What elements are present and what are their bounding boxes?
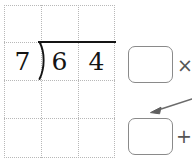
gridline-horizontal xyxy=(4,5,115,6)
plus-sign-icon: + xyxy=(176,127,192,146)
arrow-shaft xyxy=(155,99,192,111)
gridline-horizontal xyxy=(4,157,115,158)
answer-box-top[interactable] xyxy=(128,46,173,83)
multiplication-sign-icon: × xyxy=(177,56,192,75)
gridline-horizontal xyxy=(4,118,115,119)
gridline-vertical xyxy=(41,5,42,158)
dividend-digit-1: 6 xyxy=(41,43,78,81)
dividend-digit-2: 4 xyxy=(78,43,115,81)
gridline-vertical xyxy=(78,5,79,158)
gridline-vertical xyxy=(4,5,5,158)
worksheet-canvas: 7 6 4 × + xyxy=(0,0,192,165)
answer-box-bottom[interactable] xyxy=(128,118,173,155)
grid-paper xyxy=(4,5,115,158)
arrow-head xyxy=(151,107,162,114)
divisor-digit: 7 xyxy=(4,43,41,81)
gridline-vertical xyxy=(114,5,115,158)
